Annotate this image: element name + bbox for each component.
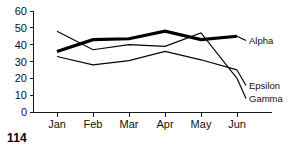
y-tick-label-50: 50 — [15, 22, 27, 34]
leader-line-alpha — [237, 36, 246, 40]
x-tick-label-may: May — [191, 118, 212, 130]
x-tick-label-apr: Apr — [156, 118, 173, 130]
x-axis-tick-labels: Jan Feb Mar Apr May Jun — [48, 118, 246, 130]
x-tick-label-feb: Feb — [84, 118, 103, 130]
x-tick-label-mar: Mar — [120, 118, 139, 130]
series-line-epsilon — [57, 51, 237, 70]
y-tick-label-20: 20 — [15, 72, 27, 84]
y-tick-label-60: 60 — [15, 5, 27, 17]
series-line-alpha — [57, 31, 237, 51]
series-label-group: Alpha Epsilon Gamma — [237, 35, 284, 104]
x-axis-ticks — [57, 113, 237, 117]
leader-line-epsilon — [237, 70, 246, 86]
y-tick-label-10: 10 — [15, 89, 27, 101]
x-tick-label-jan: Jan — [48, 118, 66, 130]
leader-line-gamma — [237, 78, 246, 98]
y-axis: 0 10 20 30 40 50 60 — [15, 5, 34, 118]
series-label-gamma: Gamma — [249, 93, 284, 104]
series-label-alpha: Alpha — [249, 35, 274, 46]
y-tick-label-30: 30 — [15, 56, 27, 68]
y-axis-ticks — [30, 11, 34, 112]
y-axis-tick-labels: 0 10 20 30 40 50 60 — [15, 5, 27, 118]
y-tick-label-40: 40 — [15, 39, 27, 51]
y-tick-label-0: 0 — [21, 106, 27, 118]
line-chart: 0 10 20 30 40 50 60 Jan Feb — [0, 0, 289, 151]
series-label-epsilon: Epsilon — [249, 80, 280, 91]
plot-series-group — [57, 31, 237, 78]
x-axis: Jan Feb Mar Apr May Jun — [34, 113, 273, 131]
figure-container: 0 10 20 30 40 50 60 Jan Feb — [0, 0, 289, 151]
page-number: 114 — [7, 131, 27, 145]
x-tick-label-jun: Jun — [228, 118, 246, 130]
